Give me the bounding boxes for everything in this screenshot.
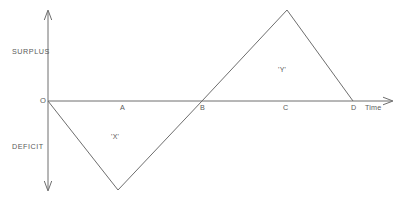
region-label-x: 'X'	[111, 133, 119, 140]
origin-label: O	[40, 97, 46, 105]
deficit-curve	[48, 101, 202, 190]
surplus-axis-label: SURPLUS	[12, 48, 50, 55]
diagram-graphic	[0, 0, 401, 201]
surplus-curve	[202, 10, 353, 101]
point-label-c: C	[283, 104, 288, 111]
point-label-a: A	[120, 104, 125, 111]
time-axis-label: Time	[365, 104, 382, 111]
deficit-axis-label: DEFICIT	[12, 143, 44, 150]
figure-canvas: SURPLUS DEFICIT O A B C D Time 'X' 'Y'	[0, 0, 401, 201]
point-label-b: B	[200, 104, 205, 111]
region-label-y: 'Y'	[278, 66, 286, 73]
point-label-d: D	[351, 104, 356, 111]
